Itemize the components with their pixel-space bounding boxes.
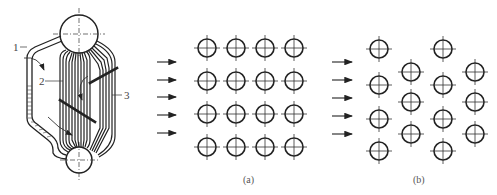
flow-arrows-a (157, 62, 176, 133)
label-2: 2 (39, 75, 45, 87)
upper-drum (53, 8, 105, 58)
caption-a: (a) (243, 174, 254, 186)
tube-bank (60, 41, 115, 157)
tube-grid-a (194, 35, 307, 160)
tube-grid-b (366, 36, 488, 164)
flow-arrows-b (332, 62, 352, 134)
label-1: 1 (13, 41, 19, 53)
panel-a-inline: (a) (157, 35, 307, 186)
caption-b: (b) (413, 174, 425, 186)
boiler-diagram: 1 2 3 (13, 8, 130, 182)
panel-b-staggered: (b) (332, 36, 488, 186)
label-3: 3 (124, 89, 130, 101)
figure-canvas: 1 2 3 (a) (0, 0, 497, 195)
downcomer-insulation (27, 86, 51, 137)
